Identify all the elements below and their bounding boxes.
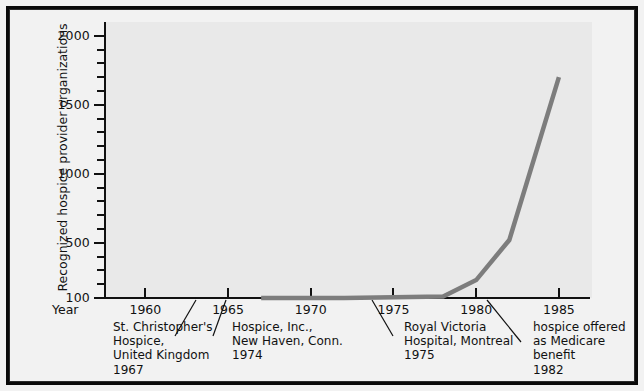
x-tick-label-1970: 1970: [281, 302, 341, 317]
y-tick-label-500: 500: [40, 235, 90, 250]
y-tick-200: [97, 283, 104, 285]
y-tick-800: [97, 200, 104, 202]
plot-area-background: [104, 22, 592, 298]
y-tick-1900: [97, 49, 104, 51]
y-tick-label-1000: 1000: [40, 166, 90, 181]
y-tick-900: [97, 187, 104, 189]
y-tick-1200: [97, 145, 104, 147]
annotation-royal-victoria: Royal Victoria Hospital, Montreal 1975: [404, 320, 513, 363]
annotation-hospice-inc: Hospice, Inc., New Haven, Conn. 1974: [232, 320, 343, 363]
x-tick-1980: [475, 288, 477, 298]
x-tick-label-1980: 1980: [446, 302, 506, 317]
y-tick-1600: [97, 90, 104, 92]
y-tick-label-2000: 2000: [40, 28, 90, 43]
y-axis-line: [104, 22, 106, 299]
x-tick-label-1960: 1960: [115, 302, 175, 317]
y-tick-2000: [94, 35, 104, 37]
annotation-st-christophers: St. Christopher's Hospice, United Kingdo…: [113, 320, 213, 377]
y-tick-1500: [94, 104, 104, 106]
x-tick-1965: [227, 288, 229, 298]
x-tick-label-1975: 1975: [363, 302, 423, 317]
y-tick-400: [97, 256, 104, 258]
y-tick-500: [94, 242, 104, 244]
y-tick-1400: [97, 118, 104, 120]
y-tick-1100: [97, 159, 104, 161]
y-tick-300: [97, 269, 104, 271]
y-tick-label-100: 100: [40, 290, 90, 305]
y-tick-1700: [97, 76, 104, 78]
x-tick-1960: [144, 288, 146, 298]
annotation-medicare-benefit: hospice offered as Medicare benefit 1982: [533, 320, 626, 377]
x-tick-1985: [558, 288, 560, 298]
y-tick-600: [97, 228, 104, 230]
x-tick-1970: [310, 288, 312, 298]
chart-figure: Recognized hospice provider organization…: [0, 0, 644, 391]
y-tick-1300: [97, 131, 104, 133]
x-axis-line: [104, 297, 590, 299]
y-tick-100: [94, 297, 104, 299]
y-tick-700: [97, 214, 104, 216]
x-tick-1975: [392, 288, 394, 298]
y-tick-1800: [97, 62, 104, 64]
y-axis-title: Recognized hospice provider organization…: [55, 8, 70, 308]
x-tick-label-1965: 1965: [198, 302, 258, 317]
x-tick-label-1985: 1985: [529, 302, 589, 317]
y-tick-1000: [94, 173, 104, 175]
y-tick-label-1500: 1500: [40, 97, 90, 112]
